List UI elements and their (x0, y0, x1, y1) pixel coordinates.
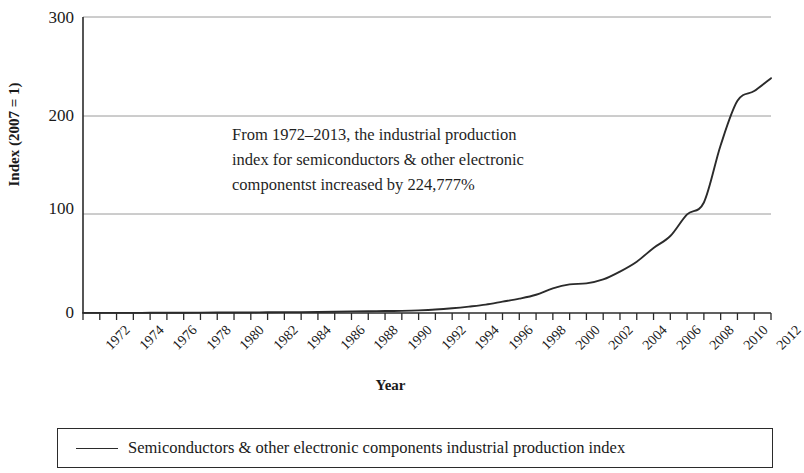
annotation-line-1: From 1972–2013, the industrial productio… (232, 122, 582, 147)
chart-annotation: From 1972–2013, the industrial productio… (232, 122, 582, 197)
legend-entry-label: Semiconductors & other electronic compon… (128, 439, 625, 457)
chart-legend: Semiconductors & other electronic compon… (57, 428, 773, 468)
annotation-line-3: componentst increased by 224,777% (232, 172, 582, 197)
x-axis-ticks (83, 313, 771, 320)
legend-line-swatch (76, 448, 118, 449)
annotation-line-2: index for semiconductors & other electro… (232, 147, 582, 172)
x-axis-title: Year (0, 377, 781, 394)
